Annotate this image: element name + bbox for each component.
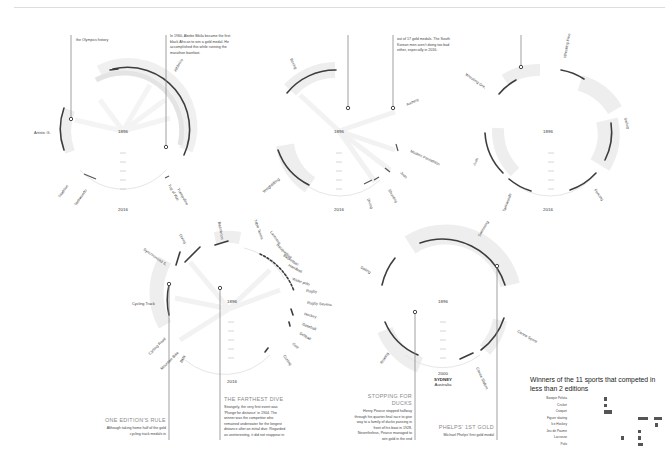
sport-label: Wrestling Free	[563, 33, 571, 58]
highlight-country: Australia	[434, 382, 452, 387]
annotation-ducks: STOPPING FOR DUCKS Henry Pearce stopped …	[353, 393, 412, 443]
year-start-label: 1896	[334, 129, 344, 134]
sport-label: Diving	[178, 234, 187, 245]
sport-label: Rugby Sevens	[307, 301, 332, 307]
annotation-heading: STOPPING FOR DUCKS	[353, 393, 412, 407]
sport-label: Curling	[282, 354, 292, 366]
row-label: Cricket	[557, 403, 567, 407]
sport-label: Taekwondo	[502, 193, 512, 212]
sport-label: Archery	[406, 98, 420, 107]
annotation-text: Henry Pearce stopped halfway through his…	[354, 409, 412, 441]
sport-label: Judo	[399, 171, 408, 180]
row-label: Jeu de Paume	[546, 429, 567, 433]
highlight-year: 2000	[438, 371, 448, 376]
annotation-text: In 1960, Abebe Bikila became the first b…	[170, 34, 230, 55]
row-label: Croquet	[556, 409, 567, 413]
sport-label: Cycling Track	[132, 302, 155, 306]
sport-label: Softball	[299, 331, 312, 341]
sport-label: BMX	[179, 354, 187, 364]
sport-label: Cycling Road	[148, 337, 167, 356]
year-end-label: 2016	[543, 207, 553, 212]
year-start-label: 1896	[543, 129, 553, 134]
radial-chart-1: 1896 2016 Artistic G. Athletics Triathlo…	[34, 35, 190, 212]
radial-chart-3: 1896 2016 Wrestling Free Wrestling Gre. …	[464, 33, 629, 212]
annotation-text: Although taking home half of the gold cy…	[107, 426, 166, 436]
sport-label: Rowing	[380, 352, 391, 365]
sport-label: Shooting	[387, 189, 398, 204]
annotation-one-edition: ONE EDITION'S RULE Although taking home …	[104, 417, 166, 437]
row-label: Ice Hockey	[551, 422, 567, 426]
sport-label: Diving	[366, 198, 373, 209]
annotation-korea: out of 17 gold medals. The South Korean …	[397, 37, 457, 54]
winners-chart: Winners of the 11 sports that competed i…	[530, 376, 665, 448]
row-label: Polo	[561, 442, 567, 446]
year-end-label: 2016	[118, 207, 128, 212]
row-label: Lacrosse	[554, 435, 567, 439]
annotation-heading: PHELPS' 1ST GOLD	[428, 424, 494, 431]
annotation-heading: ONE EDITION'S RULE	[104, 417, 166, 424]
annotation-text: Michael Phelps' first gold medal	[444, 433, 494, 437]
row-label: Basque Pelota	[546, 396, 567, 400]
annotation-olympics-history: the Olympics history	[76, 38, 156, 44]
annotation-farthest-dive: THE FARTHEST DIVE Strangely, the very fi…	[224, 396, 288, 439]
annotation-heading: THE FARTHEST DIVE	[224, 396, 288, 403]
arc-wrestling-free	[561, 70, 584, 79]
sport-label: Mountain Bike	[160, 351, 180, 371]
year-end-label: 2016	[334, 207, 344, 212]
sport-label: Canoe Slalom	[475, 367, 489, 390]
sport-label: Taekwondo	[74, 189, 88, 207]
sport-label: Canoe Sprint	[517, 329, 539, 344]
sport-label: Artistic G.	[34, 131, 50, 135]
sport-label: Synchronized S.	[142, 248, 167, 267]
annotation-phelps: PHELPS' 1ST GOLD Michael Phelps' first g…	[428, 424, 494, 439]
sport-label: Weightlifting	[262, 177, 280, 193]
year-start-label: 1896	[227, 299, 237, 304]
sport-label: Golf	[291, 342, 299, 350]
sport-label: Judo	[472, 157, 479, 166]
annotation-text: Strangely, the very first event was 'Plu…	[224, 405, 285, 437]
annotation-text: out of 17 gold medals. The South Korean …	[397, 37, 450, 52]
arc-sailing	[382, 258, 395, 285]
row-label: Figure skating	[547, 416, 567, 420]
sport-label: Triathlon	[58, 184, 70, 198]
sport-label: Wrestling Gre.	[464, 73, 486, 90]
sport-label: Sailing	[360, 265, 372, 274]
sport-label: Fencing	[593, 188, 604, 201]
sport-label: Table Tennis	[253, 219, 264, 240]
radial-chart-2: 1896 2016 Boxing Archery Modern Pentathl…	[262, 35, 440, 212]
sport-label: Boxing	[289, 58, 298, 70]
annotation-bikila: In 1960, Abebe Bikila became the first b…	[170, 34, 232, 56]
winners-chart-title: Winners of the 11 sports that competed i…	[530, 376, 665, 393]
sport-label: Hockey	[304, 312, 317, 319]
year-start-label: 1896	[118, 129, 128, 134]
winners-row: Polo	[567, 442, 665, 449]
sport-label: Rugby	[306, 289, 317, 294]
arc-fencing	[570, 173, 596, 190]
sport-label: Water polo	[292, 277, 311, 286]
sport-label: Athletics	[173, 58, 184, 73]
sport-label: Modern Pentathlon	[410, 149, 441, 166]
year-end-label: 2016	[227, 379, 237, 384]
year-start-label: 1896	[438, 299, 448, 304]
sport-label: Sailing	[623, 117, 630, 129]
annotation-text: the Olympics history	[76, 38, 108, 42]
sport-label: Baseball	[302, 322, 317, 331]
